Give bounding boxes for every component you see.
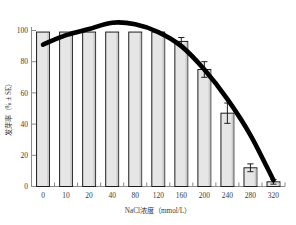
bar-shade-120 — [163, 33, 165, 185]
bar-shade-80 — [139, 33, 141, 185]
x-tick-label-10: 10 — [62, 191, 70, 200]
y-tick-label-60: 60 — [21, 89, 29, 98]
x-axis-title: NaCl浓度（mmol/L） — [125, 206, 191, 215]
x-tick-label-200: 200 — [199, 191, 211, 200]
bar-shade-200 — [209, 71, 211, 186]
bar-shade-10 — [70, 33, 72, 185]
x-tick-label-20: 20 — [85, 191, 93, 200]
x-tick-label-0: 0 — [41, 191, 45, 200]
bar-shade-240 — [232, 114, 234, 185]
y-tick-label-100: 100 — [17, 26, 29, 35]
germination-rate-bar-chart: 0 20 40 60 80 100 0102040801201602002402… — [0, 0, 296, 225]
x-tick-label-120: 120 — [153, 191, 165, 200]
bar-shade-320 — [278, 183, 280, 186]
bar-shade-280 — [255, 169, 257, 186]
y-axis-tick-labels: 0 20 40 60 80 100 — [17, 26, 29, 191]
x-axis-tick-labels: 010204080120160200240280320 — [41, 191, 279, 200]
bar-shade-160 — [186, 42, 188, 185]
x-tick-label-280: 280 — [245, 191, 257, 200]
x-tick-label-320: 320 — [268, 191, 280, 200]
bar-shade-40 — [116, 33, 118, 185]
y-tick-label-40: 40 — [21, 120, 29, 129]
y-tick-label-0: 0 — [24, 182, 28, 191]
x-tick-label-240: 240 — [222, 191, 234, 200]
x-tick-label-160: 160 — [176, 191, 188, 200]
chart-figure: 0 20 40 60 80 100 0102040801201602002402… — [0, 0, 296, 225]
bar-shade-0 — [47, 33, 49, 185]
y-axis-title: 发芽率（% ± SE） — [4, 80, 13, 137]
y-tick-label-80: 80 — [21, 57, 29, 66]
y-axis-ticks — [32, 31, 37, 187]
x-tick-label-40: 40 — [108, 191, 116, 200]
bars-group — [37, 32, 280, 186]
y-tick-label-20: 20 — [21, 151, 29, 160]
x-tick-label-80: 80 — [131, 191, 139, 200]
bar-shade-20 — [93, 33, 95, 185]
